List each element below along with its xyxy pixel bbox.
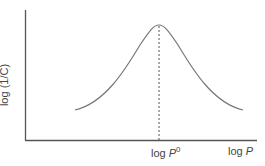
- x-axis-label: log P: [228, 145, 253, 157]
- x-tick-label-logP0: log P0: [151, 145, 181, 159]
- chart-canvas: [0, 0, 265, 166]
